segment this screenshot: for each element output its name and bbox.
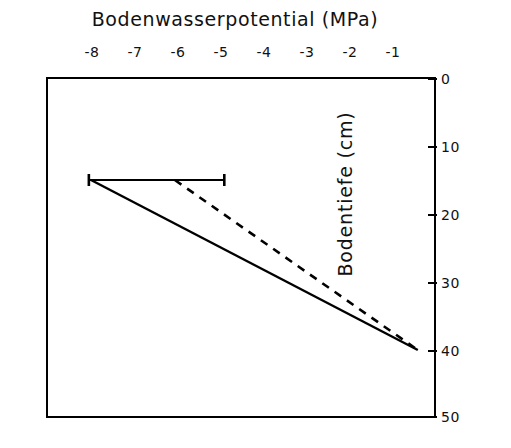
- xtick-label-minus7: -7: [128, 44, 143, 60]
- ytick-label-0: 0: [441, 71, 450, 87]
- chart-figure: Bodenwasserpotential (MPa) -8 -7 -6 -5 -…: [0, 0, 511, 448]
- xtick-label-minus1: -1: [386, 44, 401, 60]
- xtick-label-minus2: -2: [343, 44, 358, 60]
- xtick-label-minus3: -3: [300, 44, 315, 60]
- ytick-label-10: 10: [441, 139, 460, 155]
- ytick-label-40: 40: [441, 343, 460, 359]
- ytick-10: [428, 146, 437, 148]
- ytick-40: [428, 350, 437, 352]
- xtick-label-minus8: -8: [85, 44, 100, 60]
- yaxis-title: Bodentiefe (cm): [334, 94, 356, 294]
- ytick-0: [428, 78, 437, 80]
- ytick-label-50: 50: [441, 409, 460, 425]
- ytick-label-30: 30: [441, 275, 460, 291]
- ytick-50: [428, 416, 437, 418]
- ytick-20: [428, 214, 437, 216]
- chart-title: Bodenwasserpotential (MPa): [0, 8, 470, 30]
- ytick-30: [428, 282, 437, 284]
- ytick-label-20: 20: [441, 207, 460, 223]
- xtick-label-minus5: -5: [214, 44, 229, 60]
- xtick-label-minus6: -6: [171, 44, 186, 60]
- plot-area: [46, 77, 436, 418]
- xtick-label-minus4: -4: [257, 44, 272, 60]
